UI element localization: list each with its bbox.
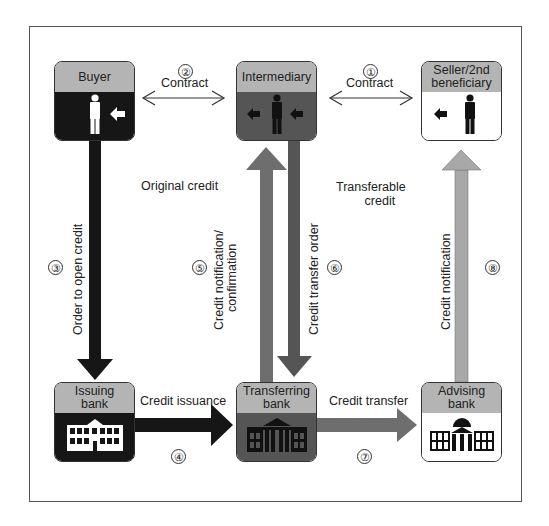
arrow-left-icon — [55, 92, 135, 141]
buyer-node: Buyer — [54, 61, 135, 141]
credit-transfer-arrow — [317, 408, 417, 442]
step-7-badge: ⑦ — [357, 449, 372, 464]
credit-issuance-label: Credit issuance — [140, 394, 226, 408]
step-6-badge: ⑥ — [327, 260, 342, 275]
step-8-badge: ⑧ — [485, 260, 500, 275]
contract-arrow-1 — [330, 91, 412, 105]
buyer-label: Buyer — [55, 62, 134, 92]
credit-transfer-order-label: Credit transfer order — [308, 223, 321, 335]
person-icon — [422, 92, 502, 141]
seller-node: Seller/2ndbeneficiary — [421, 61, 502, 141]
contract-label-1: Contract — [346, 76, 393, 90]
transferable-credit-label: Transferablecredit — [336, 180, 406, 208]
transferring-bank-node: Transferringbank — [236, 382, 317, 462]
credit-notification-confirmation-label: Credit notification/confirmation — [213, 230, 239, 330]
transferring-bank-label: Transferringbank — [237, 383, 316, 413]
intermediary-node: Intermediary — [236, 61, 317, 141]
order-to-open-credit-label: Order to open credit — [72, 224, 85, 335]
step-5-badge: ⑤ — [192, 260, 207, 275]
step-4-badge: ④ — [171, 449, 186, 464]
step-3-badge: ③ — [48, 260, 63, 275]
bank-building-icon — [237, 413, 317, 462]
advising-bank-node: Advisingbank — [421, 382, 502, 462]
issuing-bank-label: Issuingbank — [55, 383, 134, 413]
credit-transfer-label: Credit transfer — [329, 394, 408, 408]
credit-notification-confirmation-arrow — [246, 147, 287, 382]
person-icon — [237, 92, 317, 141]
advising-bank-label: Advisingbank — [422, 383, 501, 413]
seller-label: Seller/2ndbeneficiary — [422, 62, 501, 92]
intermediary-label: Intermediary — [237, 62, 316, 92]
contract-label-2: Contract — [161, 76, 208, 90]
original-credit-label: Original credit — [141, 179, 218, 193]
credit-issuance-arrow — [135, 404, 233, 446]
issuing-bank-node: Issuingbank — [54, 382, 135, 462]
bank-building-icon — [422, 413, 502, 462]
contract-arrow-2 — [143, 91, 224, 105]
credit-notification-label: Credit notification — [440, 233, 453, 330]
bank-building-icon — [55, 413, 135, 462]
